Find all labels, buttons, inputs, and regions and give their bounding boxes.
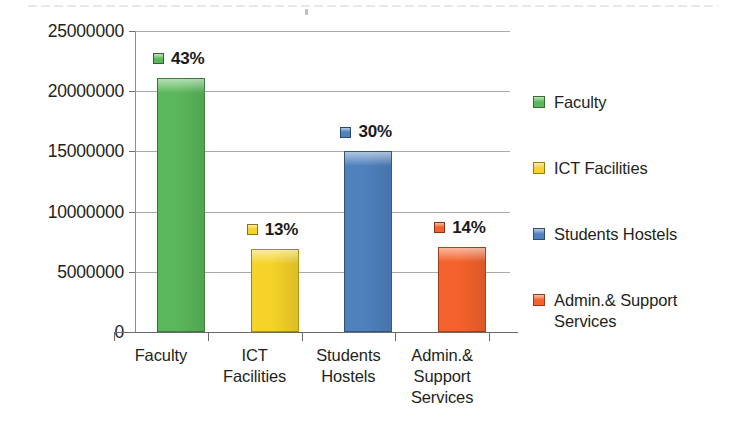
x-axis-category-label: ICTFacilities [208,345,302,387]
data-label-swatch-icon [340,127,351,138]
chart-legend: FacultyICT FacilitiesStudents HostelsAdm… [533,92,729,332]
legend-item-label: Faculty [554,92,606,113]
bar-highlight [158,79,204,93]
bar-data-label: 13% [247,220,298,240]
y-axis-tick-mark [129,151,135,152]
y-axis-tick-label: 5000000 [4,261,124,282]
x-axis-category-label: StudentsHostels [302,345,396,387]
legend-item[interactable]: Faculty [533,92,729,113]
x-axis-category-line: Facilities [208,366,302,387]
y-axis-tick-label: 20000000 [4,81,124,102]
bar-data-label: 30% [340,122,391,142]
y-axis-tick-label: 10000000 [4,201,124,222]
legend-item[interactable]: Students Hostels [533,224,729,245]
y-axis-tick-mark [129,272,135,273]
x-axis-tick-mark [208,332,209,341]
bar-highlight [252,250,298,264]
y-axis-tick-mark [129,31,135,32]
x-axis-category-line: Admin.& [395,345,489,366]
bar[interactable] [157,78,205,332]
legend-item-label: ICT Facilities [554,158,648,179]
legend-item[interactable]: ICT Facilities [533,158,729,179]
bar-data-label: 43% [153,49,204,69]
legend-swatch-icon [533,228,545,240]
x-axis-tick-mark [489,332,490,341]
y-axis-tick-label: 25000000 [4,21,124,42]
legend-item-label: Students Hostels [554,224,677,245]
y-axis-labels: 0500000010000000150000002000000025000000 [0,0,124,445]
legend-item-label: Admin.& Support Services [554,290,729,332]
x-axis-tick-mark [114,332,115,341]
bar[interactable] [438,247,486,332]
y-axis-tick-label: 15000000 [4,141,124,162]
plot-area: 43%13%30%14% [135,31,510,332]
x-axis-tick-mark [302,332,303,341]
y-axis-tick-mark [129,332,135,333]
x-axis-category-line: ICT [208,345,302,366]
bar-highlight [345,152,391,166]
x-axis-category-line: Faculty [114,345,208,366]
y-axis-tick-label: 0 [4,322,124,343]
y-axis-tick-mark [129,212,135,213]
data-label-value: 30% [358,122,391,142]
x-axis-line [114,332,518,333]
legend-item[interactable]: Admin.& Support Services [533,290,729,332]
x-axis-category-label: Admin.&SupportServices [395,345,489,408]
x-axis-tick-mark [395,332,396,341]
data-label-value: 14% [452,218,485,238]
gridline-25000000 [135,31,510,32]
bar[interactable] [251,249,299,332]
legend-swatch-icon [533,162,545,174]
data-label-swatch-icon [434,222,445,233]
legend-swatch-icon [533,96,545,108]
bar-data-label: 14% [434,218,485,238]
x-axis-category-line: Hostels [302,366,396,387]
y-axis-tick-mark [129,91,135,92]
bar-chart-figure: 0500000010000000150000002000000025000000… [0,0,729,445]
bar[interactable] [344,151,392,332]
data-label-swatch-icon [153,53,164,64]
x-axis-category-line: Students [302,345,396,366]
legend-swatch-icon [533,294,545,306]
x-axis-category-label: Faculty [114,345,208,366]
data-label-value: 13% [265,220,298,240]
data-label-swatch-icon [247,224,258,235]
x-axis-category-line: Services [395,387,489,408]
data-label-value: 43% [171,49,204,69]
x-axis-category-line: Support [395,366,489,387]
bar-highlight [439,248,485,262]
